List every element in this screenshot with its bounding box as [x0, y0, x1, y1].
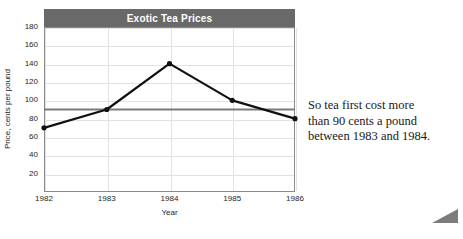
- x-tick-label: 1984: [161, 195, 179, 203]
- y-tick-label: 120: [25, 78, 38, 86]
- data-point: [230, 98, 235, 103]
- annotation-line-3: between 1983 and 1984.: [308, 129, 460, 145]
- data-point: [167, 61, 172, 66]
- chart-page: Exotic Tea Prices 1801601401201008060402…: [0, 0, 463, 239]
- x-tick-label: 1985: [223, 195, 241, 203]
- annotation-line-2: than 90 cents a pound: [308, 114, 460, 130]
- data-point: [292, 116, 297, 121]
- x-axis-title: Year: [44, 209, 295, 217]
- data-point: [104, 107, 109, 112]
- y-tick-label: 80: [29, 115, 38, 123]
- annotation-text: So tea first cost more than 90 cents a p…: [308, 98, 460, 145]
- y-tick-label: 100: [25, 96, 38, 104]
- y-tick-label: 40: [29, 151, 38, 159]
- y-tick-label: 180: [25, 23, 38, 31]
- chart-title-band: Exotic Tea Prices: [44, 9, 295, 28]
- x-tick-label: 1982: [35, 195, 53, 203]
- annotation-line-1: So tea first cost more: [308, 98, 460, 114]
- series-line: [44, 64, 295, 128]
- y-tick-label: 60: [29, 133, 38, 141]
- gridline-vertical: [296, 28, 297, 191]
- data-point: [41, 125, 46, 130]
- series-layer: [44, 27, 295, 192]
- y-tick-label: 140: [25, 60, 38, 68]
- y-tick-label: 160: [25, 41, 38, 49]
- x-axis-tick-labels: 19821983198419851986: [0, 195, 300, 209]
- y-tick-label: 20: [29, 170, 38, 178]
- x-tick-label: 1986: [286, 195, 304, 203]
- line-chart-figure: Exotic Tea Prices 1801601401201008060402…: [0, 0, 300, 239]
- corner-triangle-icon: [432, 209, 458, 223]
- chart-title: Exotic Tea Prices: [44, 14, 295, 24]
- x-tick-label: 1983: [98, 195, 116, 203]
- y-axis-title: Price, cents per pound: [4, 69, 12, 149]
